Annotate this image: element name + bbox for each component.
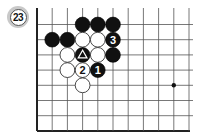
white-stone: [60, 48, 75, 63]
black-stone: [106, 48, 121, 63]
black-stone: [75, 17, 90, 32]
star-point: [172, 83, 176, 87]
move-number: 2: [80, 64, 86, 76]
white-stone: [60, 63, 75, 78]
black-stone: [60, 32, 75, 47]
white-stone: [90, 32, 105, 47]
white-stone: [90, 48, 105, 63]
black-stone: [106, 17, 121, 32]
black-stone: [45, 32, 60, 47]
black-stone: [90, 17, 105, 32]
white-stone: [75, 32, 90, 47]
move-number: 1: [95, 64, 101, 76]
move-number: 3: [110, 34, 116, 46]
white-stone: [75, 78, 90, 93]
go-board: 321: [0, 0, 197, 140]
